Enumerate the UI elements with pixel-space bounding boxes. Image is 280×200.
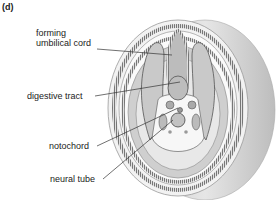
label-line2: umbilical cord [36, 38, 91, 48]
label-digestive-tract: digestive tract [27, 91, 83, 101]
label-notochord: notochord [49, 141, 89, 151]
label-neural-tube: neural tube [50, 174, 95, 184]
label-forming-umbilical-cord: forming umbilical cord [36, 28, 91, 48]
digestive-tract [168, 76, 188, 100]
neural-tube [171, 113, 185, 127]
label-line1: forming [36, 28, 91, 38]
notochord [178, 108, 183, 113]
